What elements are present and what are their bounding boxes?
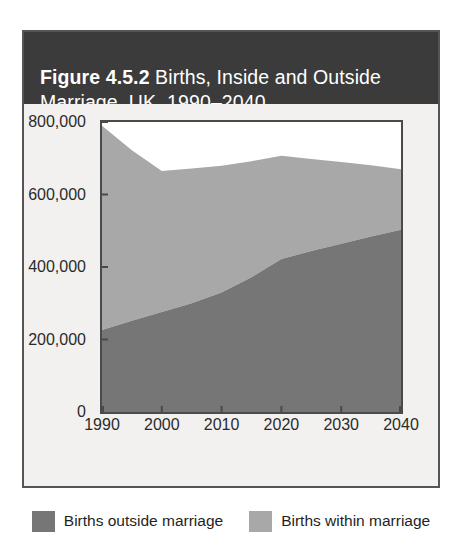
figure-number: Figure 4.5.2 — [40, 66, 150, 88]
chart-card: 0200,000400,000600,000800,000 1990200020… — [24, 104, 438, 414]
area-chart-svg — [102, 122, 401, 412]
legend-item[interactable]: Births within marriage — [249, 511, 430, 532]
x-axis-tick-label: 2000 — [144, 416, 180, 434]
y-axis-tick-label: 400,000 — [28, 258, 86, 276]
figure-title-bar: Figure 4.5.2 Births, Inside and Outside … — [24, 32, 438, 104]
x-axis-tick-label: 2040 — [383, 416, 419, 434]
x-axis-tick-label: 2010 — [204, 416, 240, 434]
y-axis-tick-label: 600,000 — [28, 186, 86, 204]
legend-item-label: Births outside marriage — [64, 512, 223, 530]
y-axis-tick-label: 800,000 — [28, 113, 86, 131]
x-axis-tick-label: 1990 — [84, 416, 120, 434]
legend-item[interactable]: Births outside marriage — [32, 511, 223, 532]
legend-swatch-icon — [249, 511, 272, 532]
legend-swatch-icon — [32, 511, 55, 532]
y-axis-labels: 0200,000400,000600,000800,000 — [24, 120, 94, 414]
x-axis-labels: 199020002010202020302040 — [100, 416, 403, 440]
chart-legend: Births outside marriageBirths within mar… — [24, 504, 438, 536]
x-axis-tick-label: 2020 — [264, 416, 300, 434]
figure-container: Figure 4.5.2 Births, Inside and Outside … — [22, 30, 440, 488]
plot-area — [100, 120, 403, 414]
legend-item-label: Births within marriage — [281, 512, 430, 530]
x-axis-tick-label: 2030 — [323, 416, 359, 434]
y-axis-tick-label: 200,000 — [28, 331, 86, 349]
